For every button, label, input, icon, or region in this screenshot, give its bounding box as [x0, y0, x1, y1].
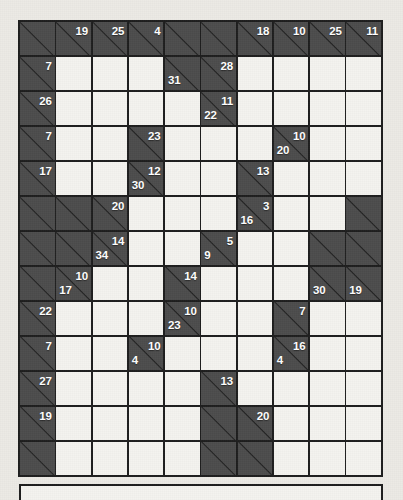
clue-cell: 25 — [310, 22, 345, 55]
entry-cell[interactable] — [274, 232, 309, 265]
entry-cell[interactable] — [165, 127, 200, 160]
down-clue: 19 — [349, 285, 361, 297]
entry-cell[interactable] — [93, 127, 128, 160]
diagonal-divider-icon — [201, 22, 236, 55]
down-clue: 31 — [168, 75, 180, 87]
entry-cell[interactable] — [346, 92, 381, 125]
entry-cell[interactable] — [165, 232, 200, 265]
entry-cell[interactable] — [93, 407, 128, 440]
entry-cell[interactable] — [201, 267, 236, 300]
clue-cell: 20 — [238, 407, 273, 440]
entry-cell[interactable] — [129, 197, 164, 230]
entry-cell[interactable] — [129, 407, 164, 440]
clue-cell: 19 — [56, 22, 91, 55]
diagonal-divider-icon — [165, 22, 200, 55]
entry-cell[interactable] — [274, 267, 309, 300]
across-clue: 20 — [257, 411, 269, 423]
entry-cell[interactable] — [201, 337, 236, 370]
entry-cell[interactable] — [310, 302, 345, 335]
entry-cell[interactable] — [56, 57, 91, 90]
entry-cell[interactable] — [346, 372, 381, 405]
entry-cell[interactable] — [346, 162, 381, 195]
entry-cell[interactable] — [310, 337, 345, 370]
entry-cell[interactable] — [274, 162, 309, 195]
entry-cell[interactable] — [56, 127, 91, 160]
entry-cell[interactable] — [201, 127, 236, 160]
entry-cell[interactable] — [274, 442, 309, 475]
entry-cell[interactable] — [310, 127, 345, 160]
entry-cell[interactable] — [93, 162, 128, 195]
entry-cell[interactable] — [201, 302, 236, 335]
diagonal-divider-icon — [201, 407, 236, 440]
entry-cell[interactable] — [129, 372, 164, 405]
entry-cell[interactable] — [93, 337, 128, 370]
entry-cell[interactable] — [93, 57, 128, 90]
entry-cell[interactable] — [238, 337, 273, 370]
entry-cell[interactable] — [274, 372, 309, 405]
entry-cell[interactable] — [346, 337, 381, 370]
entry-cell[interactable] — [310, 197, 345, 230]
entry-cell[interactable] — [238, 372, 273, 405]
entry-cell[interactable] — [56, 442, 91, 475]
entry-cell[interactable] — [201, 162, 236, 195]
entry-cell[interactable] — [238, 232, 273, 265]
clue-cell: 7 — [20, 57, 55, 90]
clue-cell: 20 — [93, 197, 128, 230]
entry-cell[interactable] — [93, 442, 128, 475]
entry-cell[interactable] — [56, 92, 91, 125]
entry-cell[interactable] — [238, 57, 273, 90]
entry-cell[interactable] — [93, 92, 128, 125]
entry-cell[interactable] — [93, 267, 128, 300]
kakuro-grid[interactable]: 1925418102511731282611227231020171230132… — [18, 20, 383, 477]
entry-cell[interactable] — [238, 302, 273, 335]
clue-cell: 1434 — [93, 232, 128, 265]
entry-cell[interactable] — [165, 372, 200, 405]
entry-cell[interactable] — [346, 302, 381, 335]
entry-cell[interactable] — [129, 267, 164, 300]
entry-cell[interactable] — [93, 372, 128, 405]
entry-cell[interactable] — [129, 442, 164, 475]
entry-cell[interactable] — [56, 337, 91, 370]
entry-cell[interactable] — [165, 442, 200, 475]
entry-cell[interactable] — [56, 162, 91, 195]
entry-cell[interactable] — [310, 57, 345, 90]
entry-cell[interactable] — [165, 162, 200, 195]
entry-cell[interactable] — [201, 197, 236, 230]
clue-cell: 164 — [274, 337, 309, 370]
entry-cell[interactable] — [310, 407, 345, 440]
entry-cell[interactable] — [165, 407, 200, 440]
clue-cell: 27 — [20, 372, 55, 405]
clue-cell — [346, 232, 381, 265]
across-clue: 16 — [293, 341, 305, 353]
entry-cell[interactable] — [129, 302, 164, 335]
entry-cell[interactable] — [165, 337, 200, 370]
entry-cell[interactable] — [238, 92, 273, 125]
entry-cell[interactable] — [238, 267, 273, 300]
entry-cell[interactable] — [346, 127, 381, 160]
entry-cell[interactable] — [346, 442, 381, 475]
entry-cell[interactable] — [56, 302, 91, 335]
entry-cell[interactable] — [165, 92, 200, 125]
entry-cell[interactable] — [93, 302, 128, 335]
entry-cell[interactable] — [165, 197, 200, 230]
clue-cell: 1020 — [274, 127, 309, 160]
entry-cell[interactable] — [274, 197, 309, 230]
entry-cell[interactable] — [310, 442, 345, 475]
entry-cell[interactable] — [129, 57, 164, 90]
entry-cell[interactable] — [346, 57, 381, 90]
entry-cell[interactable] — [310, 372, 345, 405]
entry-cell[interactable] — [310, 92, 345, 125]
entry-cell[interactable] — [238, 127, 273, 160]
clue-cell: 25 — [93, 22, 128, 55]
entry-cell[interactable] — [56, 407, 91, 440]
entry-cell[interactable] — [310, 162, 345, 195]
entry-cell[interactable] — [56, 372, 91, 405]
entry-cell[interactable] — [346, 407, 381, 440]
entry-cell[interactable] — [274, 407, 309, 440]
entry-cell[interactable] — [129, 92, 164, 125]
entry-cell[interactable] — [274, 92, 309, 125]
clue-cell: 7 — [274, 302, 309, 335]
diagonal-divider-icon — [20, 232, 55, 265]
entry-cell[interactable] — [129, 232, 164, 265]
entry-cell[interactable] — [274, 57, 309, 90]
